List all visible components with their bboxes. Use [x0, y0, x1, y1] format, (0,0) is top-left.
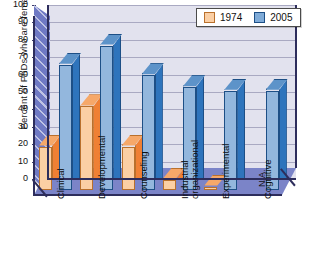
bar-1974-clinical-front: [39, 147, 52, 191]
x-axis-label-counseling: Counseling: [139, 151, 149, 199]
bar-2005-counseling-side: [155, 64, 163, 179]
bar-1974-counseling: [122, 147, 135, 191]
bar-chart: Percent of PhDs who are female 100908070…: [0, 0, 327, 267]
x-axis-label-clinical: Clinical: [56, 168, 66, 199]
x-axis-label-experimental: Experimental: [221, 144, 231, 199]
bar-1974-industrial-organizational: [163, 180, 176, 190]
legend-swatch-2005-icon: [254, 12, 265, 23]
y-tick-label-70: 70: [6, 52, 28, 61]
bar-2005-clinical-side: [72, 54, 80, 179]
bar-2005-cognitive-side: [279, 80, 287, 179]
bar-1974-clinical: [39, 147, 52, 191]
y-axis-line-front: [33, 16, 35, 195]
y-tick-label-30: 30: [6, 122, 28, 131]
bar-1974-industrial-organizational-front: [163, 180, 176, 190]
gridline-100: [48, 5, 296, 6]
legend-swatch-1974-icon: [204, 12, 215, 23]
bar-1974-experimental-front: [204, 187, 217, 190]
y-tick-label-90: 90: [6, 17, 28, 26]
x-axis-line-front: [33, 194, 282, 196]
legend-label-2005: 2005: [270, 12, 292, 23]
plot-area: N/A: [34, 5, 296, 190]
x-axis-label-organizational: organizational: [190, 140, 200, 199]
y-tick-label-80: 80: [6, 35, 28, 44]
legend-item-1974: 1974: [204, 12, 242, 23]
y-axis-line-back: [47, 5, 49, 179]
y-axis-ticks: 1009080706050403020100: [4, 0, 28, 267]
bar-2005-experimental-side: [237, 80, 245, 179]
y-tick-label-60: 60: [6, 70, 28, 79]
gridline-50: [48, 92, 296, 93]
gridline-70: [48, 57, 296, 58]
gridline-80: [48, 40, 296, 41]
y-tick-label-100: 100: [6, 0, 28, 9]
y-tick-label-50: 50: [6, 87, 28, 96]
y-tick-label-20: 20: [6, 139, 28, 148]
x-axis-label-developmental: Developmental: [97, 136, 107, 199]
x-axis-line-back: [47, 178, 296, 180]
y-tick-label-40: 40: [6, 104, 28, 113]
bar-1974-experimental: [204, 187, 217, 190]
bar-2005-developmental-side: [113, 35, 121, 179]
gridline-60: [48, 75, 296, 76]
legend-label-1974: 1974: [220, 12, 242, 23]
legend-item-2005: 2005: [254, 12, 292, 23]
y-tick-label-10: 10: [6, 157, 28, 166]
y-tick-label-0: 0: [6, 174, 28, 183]
x-axis-label-cognitive: Cognitive: [263, 159, 273, 199]
chart-legend: 1974 2005: [196, 8, 301, 27]
bar-1974-counseling-front: [122, 147, 135, 191]
plot-right-edge: [295, 5, 297, 168]
